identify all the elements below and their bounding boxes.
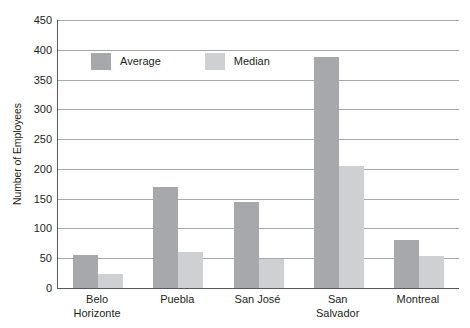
x-axis-category-label-line: San	[298, 293, 378, 307]
y-axis-tick-label: 0	[14, 283, 52, 294]
x-axis-category-labels: BeloHorizontePueblaSan JoséSanSalvadorMo…	[57, 293, 458, 327]
y-axis-tick-label: 400	[14, 44, 52, 55]
bar-average	[394, 240, 419, 288]
bar-average	[73, 255, 98, 288]
x-axis-category-label: BeloHorizonte	[57, 293, 137, 320]
x-axis-category-label-line: Horizonte	[57, 307, 137, 321]
y-axis-tick-label: 350	[14, 74, 52, 85]
bar-average	[314, 57, 339, 288]
bar-median	[259, 259, 284, 288]
y-axis-tick-label: 100	[14, 223, 52, 234]
x-axis-category-label-line: Belo	[57, 293, 137, 307]
plot-area: AverageMedian	[57, 20, 459, 289]
bar-median	[178, 252, 203, 288]
bar-median	[419, 256, 444, 288]
bar-median	[339, 166, 364, 288]
bar-group	[394, 20, 444, 288]
bar-median	[98, 274, 123, 288]
y-axis-tick-label: 450	[14, 15, 52, 26]
y-axis-tick-label: 200	[14, 163, 52, 174]
legend-item: Average	[91, 53, 161, 70]
bar-average	[153, 187, 178, 288]
x-axis-category-label: San José	[217, 293, 297, 307]
y-axis-tick-labels: 450400350300250200150100500	[14, 20, 52, 288]
chart-legend: AverageMedian	[91, 53, 270, 70]
x-axis-category-label: Montreal	[378, 293, 458, 307]
y-axis-tick-label: 50	[14, 253, 52, 264]
legend-item: Median	[205, 53, 270, 70]
y-axis-tick-label: 250	[14, 134, 52, 145]
x-axis-category-label-line: San José	[217, 293, 297, 307]
x-axis-category-label: SanSalvador	[298, 293, 378, 320]
x-axis-category-label-line: Salvador	[298, 307, 378, 321]
y-axis-tick-label: 300	[14, 104, 52, 115]
legend-label: Average	[120, 56, 161, 67]
x-axis-category-label-line: Montreal	[378, 293, 458, 307]
legend-swatch-icon	[205, 53, 225, 70]
legend-swatch-icon	[91, 53, 111, 70]
y-axis-tick-label: 150	[14, 193, 52, 204]
bar-group	[314, 20, 364, 288]
x-axis-category-label: Puebla	[137, 293, 217, 307]
bar-chart: Number of Employees 45040035030025020015…	[0, 0, 470, 328]
legend-label: Median	[234, 56, 270, 67]
x-axis-category-label-line: Puebla	[137, 293, 217, 307]
bar-average	[234, 202, 259, 288]
